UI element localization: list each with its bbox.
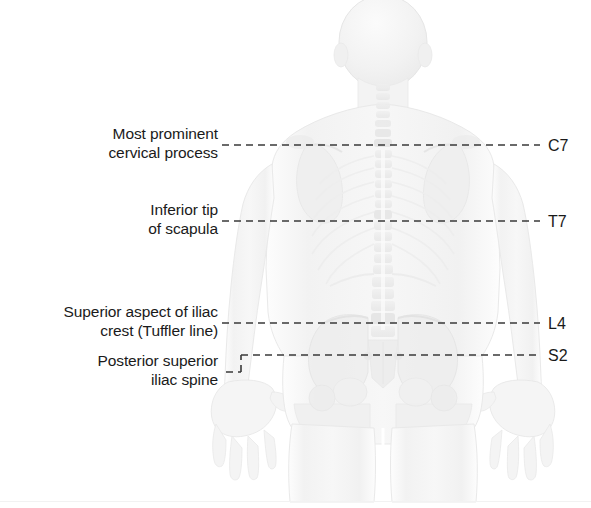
leader-lines-layer (0, 0, 591, 508)
label-inferior-tip-of-scapula: Inferior tip of scapula (0, 200, 218, 238)
vertebra-level-c7: C7 (548, 136, 568, 155)
label-posterior-superior-iliac-spine: Posterior superior iliac spine (0, 351, 218, 389)
vertebra-level-t7: T7 (548, 212, 567, 231)
vertebra-level-l4: L4 (548, 314, 566, 333)
label-most-prominent-cervical-process: Most prominent cervical process (0, 124, 218, 162)
vertebra-level-s2: S2 (548, 346, 568, 365)
anatomical-figure: Most prominent cervical process Inferior… (0, 0, 591, 508)
label-superior-aspect-of-iliac-crest: Superior aspect of iliac crest (Tuffler … (0, 302, 218, 340)
page-edge-artifact (0, 501, 591, 502)
